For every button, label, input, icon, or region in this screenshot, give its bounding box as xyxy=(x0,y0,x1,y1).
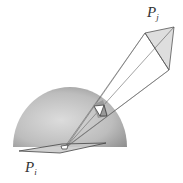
label-pj: Pj xyxy=(147,5,159,22)
label-pj-base: P xyxy=(147,4,156,20)
label-pi-base: P xyxy=(25,159,34,175)
base-plane-projection xyxy=(61,145,68,149)
diagram-canvas xyxy=(0,0,183,183)
label-pi-sub: i xyxy=(34,167,37,177)
label-pj-sub: j xyxy=(156,12,159,22)
label-pi: Pi xyxy=(25,160,37,177)
hemisphere-projection-diagram: Pj Pi xyxy=(0,0,183,183)
hemisphere xyxy=(13,87,127,147)
patch-pj xyxy=(145,27,174,70)
